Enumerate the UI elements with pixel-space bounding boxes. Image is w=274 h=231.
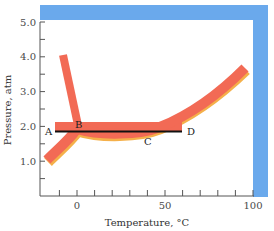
phase-diagram: 5.0 4.0 3.0 2.0 1.0 0 50 100 Temperature… [0, 0, 274, 231]
point-label-a: A [44, 126, 53, 137]
frame-right-band [253, 5, 268, 197]
y-tick-label: 3.0 [20, 86, 36, 97]
y-tick-label: 1.0 [20, 156, 36, 167]
y-axis-title: Pressure, atm [2, 74, 13, 145]
x-axis-title: Temperature, °C [105, 217, 190, 228]
x-tick-label: 100 [243, 200, 262, 211]
x-tick-label: 0 [74, 200, 80, 211]
y-tick-label: 5.0 [20, 17, 36, 28]
y-tick-label: 4.0 [20, 51, 36, 62]
point-label-b: B [75, 119, 82, 130]
x-axis [40, 190, 254, 196]
point-label-d: D [187, 126, 195, 137]
point-label-c: C [144, 136, 152, 147]
x-tick-label: 50 [159, 200, 172, 211]
frame-top-band [40, 5, 268, 20]
y-axis [40, 22, 45, 196]
y-tick-label: 2.0 [20, 121, 36, 132]
